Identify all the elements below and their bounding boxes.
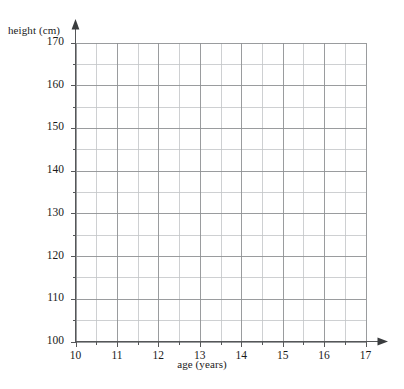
x-tick-label: 12: [143, 349, 173, 361]
x-axis-arrowhead: [378, 337, 389, 345]
y-tick-label: 130: [30, 206, 64, 218]
y-tick-label: 140: [30, 163, 64, 175]
y-tick-label: 100: [30, 334, 64, 346]
x-tick-label: 13: [185, 349, 215, 361]
y-tick-label: 120: [30, 249, 64, 261]
y-axis-arrowhead: [72, 19, 80, 30]
y-tick-label: 110: [30, 291, 64, 303]
y-tick-label: 150: [30, 120, 64, 132]
x-tick-label: 16: [309, 349, 339, 361]
x-tick-label: 15: [268, 349, 298, 361]
graph-figure: height (cm) age (years) 1701601501401301…: [0, 0, 404, 389]
x-tick-label: 11: [102, 349, 132, 361]
grid-plot-area: [0, 0, 404, 389]
x-tick-label: 14: [226, 349, 256, 361]
y-tick-label: 170: [30, 35, 64, 47]
tick-marks: [71, 44, 367, 347]
axis-lines: [72, 19, 388, 346]
x-tick-label: 17: [351, 349, 381, 361]
x-tick-label: 10: [61, 349, 91, 361]
y-tick-label: 160: [30, 78, 64, 90]
minor-gridlines: [76, 43, 366, 342]
